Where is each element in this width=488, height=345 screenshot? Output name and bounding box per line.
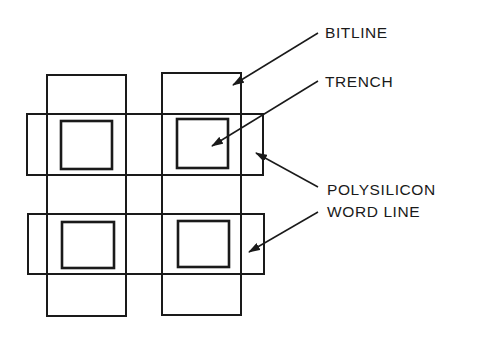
bitline-label: BITLINE (325, 25, 388, 40)
trench-top-right (177, 119, 228, 168)
trench-bottom-right (178, 221, 229, 267)
word-line-label: WORD LINE (327, 204, 420, 219)
trench-cell-layout-diagram (0, 0, 488, 345)
wordline-arrow-top (256, 153, 318, 187)
bitline-arrow (233, 33, 318, 85)
polysilicon-label: POLYSILICON (327, 182, 436, 197)
bitline-left (47, 75, 126, 316)
trench-label: TRENCH (325, 74, 393, 89)
trench-bottom-left (62, 222, 114, 268)
trench-top-left (61, 121, 112, 169)
wordline-arrow-bottom (249, 212, 318, 252)
bitline-right (162, 73, 241, 315)
